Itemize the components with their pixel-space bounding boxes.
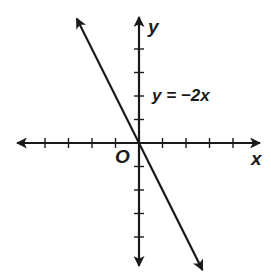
coordinate-graph: y x O y = −2x: [0, 0, 271, 274]
y-axis-label: y: [147, 16, 160, 37]
origin-label: O: [115, 146, 130, 167]
x-axis-label: x: [250, 148, 263, 169]
equation-label: y = −2x: [151, 86, 211, 105]
